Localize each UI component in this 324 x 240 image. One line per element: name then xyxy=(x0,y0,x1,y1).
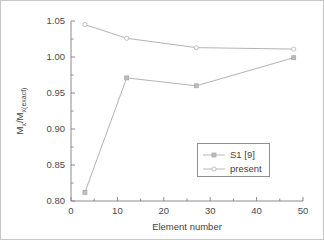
x-tick-label: 0 xyxy=(68,205,73,216)
x-axis-title-group: Element number xyxy=(152,221,222,232)
x-axis-title: Element number xyxy=(152,221,222,232)
series-line xyxy=(85,25,294,49)
x-tick-labels: 01020304050 xyxy=(68,205,308,216)
y-tick-label: 0.90 xyxy=(47,123,66,134)
series-present xyxy=(83,23,296,52)
data-point-marker xyxy=(83,23,87,27)
y-tick-label: 0.80 xyxy=(47,195,66,206)
legend: S1 [9]present xyxy=(198,144,270,177)
y-tick-label: 1.00 xyxy=(47,51,66,62)
y-axis-title-slash: /M xyxy=(14,112,25,123)
data-point-marker xyxy=(83,190,87,194)
y-axis-group: 0.800.850.900.951.001.05 xyxy=(47,15,76,206)
data-point-marker xyxy=(125,76,129,80)
y-axis-title-m: M xyxy=(14,126,25,134)
data-point-marker xyxy=(194,46,198,50)
legend-label: present xyxy=(230,163,262,174)
data-point-marker xyxy=(194,84,198,88)
data-point-marker xyxy=(125,36,129,40)
y-tick-labels: 0.800.850.900.951.001.05 xyxy=(47,15,66,206)
legend-label: S1 [9] xyxy=(230,149,255,160)
legend-marker xyxy=(212,153,216,157)
x-tick-label: 10 xyxy=(112,205,123,216)
y-tick-label: 1.05 xyxy=(47,15,66,26)
x-tick-label: 30 xyxy=(205,205,216,216)
line-chart: 0.800.850.900.951.001.05 01020304050 Ele… xyxy=(1,1,324,240)
x-tick-label: 50 xyxy=(298,205,309,216)
legend-marker xyxy=(212,167,216,171)
y-axis-title: Mx/Mx(exact) xyxy=(14,88,28,135)
chart-figure: 0.800.850.900.951.001.05 01020304050 Ele… xyxy=(0,0,324,240)
x-tick-label: 40 xyxy=(251,205,262,216)
data-point-marker xyxy=(292,47,296,51)
y-tick-label: 0.85 xyxy=(47,159,66,170)
y-axis-title-group: Mx/Mx(exact) xyxy=(14,88,28,135)
y-tick-label: 0.95 xyxy=(47,87,66,98)
x-tick-label: 20 xyxy=(159,205,170,216)
x-axis-group: 01020304050 xyxy=(68,197,308,216)
y-axis-title-sub-exact: x(exact) xyxy=(20,88,28,113)
data-point-marker xyxy=(292,56,296,60)
